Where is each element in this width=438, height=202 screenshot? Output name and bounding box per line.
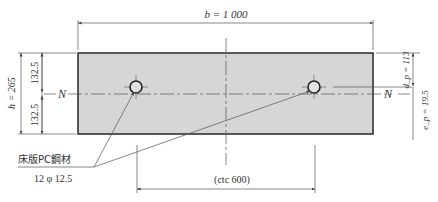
width-label: b = 1 000 <box>204 8 248 20</box>
slab-cross-section-diagram: b = 1 000 h = 265 132.5 132.5 N N <box>0 0 438 202</box>
ep-label: e_p = 19.5 <box>420 90 430 130</box>
tendon-label-line2: 12 φ 12.5 <box>34 173 72 184</box>
neutral-axis-label-right: N <box>383 87 393 101</box>
height-label: h = 265 <box>6 77 17 109</box>
spacing-dimension: (ctc 600) <box>137 145 315 193</box>
tendon-label-line1: 床版PC鋼材 <box>18 153 71 165</box>
spacing-label: (ctc 600) <box>214 174 250 186</box>
width-dimension: b = 1 000 <box>78 8 373 50</box>
slab-section <box>78 53 373 134</box>
dp-label: d_p = 113 <box>401 51 411 88</box>
neutral-axis-label-left: N <box>57 87 67 101</box>
lower-half-label: 132.5 <box>29 104 40 127</box>
upper-half-label: 132.5 <box>29 62 40 85</box>
